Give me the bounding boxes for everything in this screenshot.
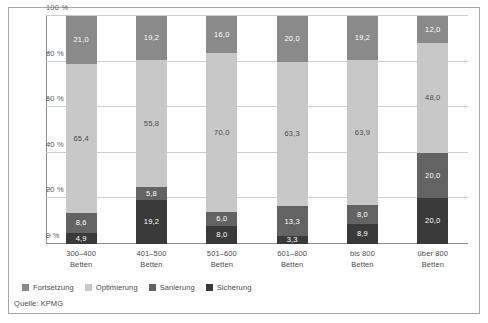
chart-legend: FortsetzungOptimierungSanierungSicherung [22, 283, 251, 292]
bar-segment-value: 8,9 [357, 230, 368, 238]
bar-segment[interactable]: 55,8 [136, 60, 167, 187]
bar-segment-value: 19,2 [144, 34, 159, 42]
stacked-bar[interactable]: 19,263,98,08,9 [347, 16, 378, 244]
bar-segment-value: 5,8 [146, 190, 157, 198]
bar-column: 20,063,313,33,3 [257, 16, 327, 244]
bar-column: 16,070,06,08,0 [187, 16, 257, 244]
bar-segment-value: 19,2 [144, 218, 159, 226]
bar-segment[interactable]: 5,8 [136, 187, 167, 200]
bar-group: 21,065,48,64,919,255,85,819,216,070,06,0… [46, 16, 468, 244]
x-axis-category-label: 501–600Betten [187, 249, 257, 270]
x-axis-category-line: 300–400 [46, 249, 116, 260]
bar-segment[interactable]: 8,9 [347, 224, 378, 244]
bar-segment[interactable]: 19,2 [347, 16, 378, 60]
stacked-bar[interactable]: 21,065,48,64,9 [66, 16, 97, 244]
x-axis-category-label: über 800Betten [398, 249, 468, 270]
bar-segment-value: 12,0 [425, 26, 440, 34]
bar-segment-value: 21,0 [73, 36, 88, 44]
legend-item[interactable]: Sanierung [149, 283, 195, 292]
plot-area: 0 %20 %40 %60 %80 %100 % 21,065,48,64,91… [46, 16, 468, 244]
bar-column: 19,263,98,08,9 [327, 16, 397, 244]
bar-segment-value: 8,6 [76, 219, 87, 227]
x-axis-category-label: 401–500Betten [116, 249, 186, 270]
bar-segment[interactable]: 6,0 [206, 212, 237, 226]
legend-swatch-icon [206, 284, 213, 291]
bar-segment[interactable]: 21,0 [66, 16, 97, 64]
bar-segment[interactable]: 63,9 [347, 60, 378, 206]
x-axis-category-label: 601–800Betten [257, 249, 327, 270]
bar-segment-value: 63,9 [355, 129, 370, 137]
x-axis-category-line: 401–500 [116, 249, 186, 260]
bar-segment-value: 3,3 [287, 236, 298, 244]
bar-segment[interactable]: 8,6 [66, 213, 97, 233]
bar-segment[interactable]: 19,2 [136, 16, 167, 60]
bar-segment[interactable]: 4,9 [66, 233, 97, 244]
x-axis-category-line: über 800 [398, 249, 468, 260]
bar-segment[interactable]: 8,0 [347, 205, 378, 223]
bar-segment[interactable]: 20,0 [417, 153, 448, 199]
x-axis-category-label: 300–400Betten [46, 249, 116, 270]
x-axis-category-line: 501–600 [187, 249, 257, 260]
x-axis-category-line: Betten [327, 260, 397, 271]
legend-swatch-icon [149, 284, 156, 291]
legend-swatch-icon [85, 284, 92, 291]
legend-label: Optimierung [96, 283, 138, 292]
legend-item[interactable]: Fortsetzung [22, 283, 74, 292]
bar-segment-value: 20,0 [425, 217, 440, 225]
legend-item[interactable]: Sicherung [206, 283, 252, 292]
bar-segment[interactable]: 20,0 [417, 198, 448, 244]
x-axis-category-line: 601–800 [257, 249, 327, 260]
stacked-bar[interactable]: 20,063,313,33,3 [277, 16, 308, 244]
bar-segment-value: 8,0 [357, 211, 368, 219]
stacked-bar[interactable]: 19,255,85,819,2 [136, 16, 167, 244]
bar-segment-value: 16,0 [214, 31, 229, 39]
bar-segment-value: 65,4 [73, 135, 88, 143]
source-note: Quelle: KPMG [14, 299, 63, 308]
x-axis-category-label: bis 800Betten [327, 249, 397, 270]
bar-column: 19,255,85,819,2 [116, 16, 186, 244]
bar-segment-value: 63,3 [284, 130, 299, 138]
bar-segment-value: 55,8 [144, 120, 159, 128]
bar-segment[interactable]: 63,3 [277, 62, 308, 206]
bar-segment[interactable]: 13,3 [277, 206, 308, 236]
x-axis-category-line: Betten [46, 260, 116, 271]
bar-segment-value: 20,0 [425, 172, 440, 180]
bar-segment-value: 70,0 [214, 129, 229, 137]
bar-segment[interactable]: 16,0 [206, 16, 237, 52]
bar-segment-value: 4,9 [76, 235, 87, 243]
bar-column: 12,048,020,020,0 [398, 16, 468, 244]
bar-segment-value: 19,2 [355, 34, 370, 42]
stacked-bar[interactable]: 16,070,06,08,0 [206, 16, 237, 244]
x-axis-category-line: bis 800 [327, 249, 397, 260]
legend-label: Fortsetzung [33, 283, 74, 292]
x-axis-labels: 300–400Betten401–500Betten501–600Betten6… [46, 249, 468, 270]
bar-segment-value: 13,3 [284, 218, 299, 226]
bar-segment-value: 20,0 [284, 35, 299, 43]
legend-label: Sanierung [160, 283, 195, 292]
stacked-bar[interactable]: 12,048,020,020,0 [417, 16, 448, 244]
bar-segment-value: 6,0 [216, 215, 227, 223]
legend-label: Sicherung [217, 283, 252, 292]
bar-segment[interactable]: 3,3 [277, 236, 308, 244]
x-axis-category-line: Betten [187, 260, 257, 271]
bar-segment[interactable]: 8,0 [206, 226, 237, 244]
y-axis-tick-mark [47, 7, 51, 8]
x-axis-category-line: Betten [116, 260, 186, 271]
x-axis-category-line: Betten [257, 260, 327, 271]
chart-figure: 0 %20 %40 %60 %80 %100 % 21,065,48,64,91… [0, 0, 488, 323]
bar-segment[interactable]: 20,0 [277, 16, 308, 62]
bar-segment[interactable]: 12,0 [417, 16, 448, 43]
bar-segment-value: 48,0 [425, 94, 440, 102]
bar-segment[interactable]: 48,0 [417, 43, 448, 152]
bar-segment[interactable]: 70,0 [206, 53, 237, 213]
bar-segment-value: 8,0 [216, 231, 227, 239]
bar-segment[interactable]: 19,2 [136, 200, 167, 244]
legend-item[interactable]: Optimierung [85, 283, 138, 292]
bar-column: 21,065,48,64,9 [46, 16, 116, 244]
bar-segment[interactable]: 65,4 [66, 64, 97, 213]
legend-swatch-icon [22, 284, 29, 291]
x-axis-category-line: Betten [398, 260, 468, 271]
